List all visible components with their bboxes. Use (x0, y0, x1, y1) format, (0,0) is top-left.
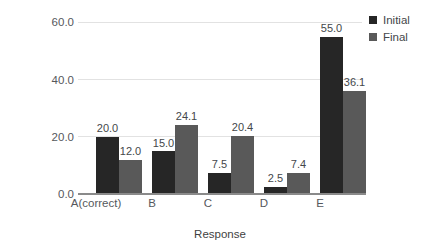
chart-legend: Initial Final (369, 12, 437, 46)
x-axis-line (78, 193, 366, 195)
legend-item-final[interactable]: Final (369, 29, 437, 45)
y-axis-tick-labels: 0.0 20.0 40.0 60.0 (34, 0, 74, 252)
legend-swatch-initial (369, 16, 377, 24)
legend-item-initial[interactable]: Initial (369, 12, 437, 28)
legend-label-final: Final (383, 31, 408, 43)
bar-initial-e[interactable] (320, 37, 343, 194)
bar-chart-figure: Frequency (%) 0.0 20.0 40.0 60.0 20.0 12… (0, 0, 437, 252)
legend-label-initial: Initial (383, 14, 410, 26)
bar-value-initial-d: 2.5 (256, 172, 296, 184)
bar-value-initial-c: 7.5 (200, 158, 240, 170)
plot-area: 20.0 12.0 15.0 24.1 7.5 20.4 2.5 7.4 (78, 22, 362, 194)
bar-value-final-c: 20.4 (223, 121, 263, 133)
y-tick-label-1: 20.0 (34, 131, 74, 143)
legend-swatch-final (369, 33, 377, 41)
bar-value-final-b: 24.1 (167, 110, 207, 122)
bar-initial-b[interactable] (152, 151, 175, 194)
bar-value-initial-e: 55.0 (312, 22, 352, 34)
bar-final-a[interactable] (119, 160, 142, 194)
bar-final-b[interactable] (175, 125, 198, 194)
bar-value-final-e: 36.1 (335, 76, 375, 88)
bar-value-final-d: 7.4 (279, 158, 319, 170)
x-tick-label-e: E (275, 197, 365, 209)
y-tick-label-2: 40.0 (34, 74, 74, 86)
bar-initial-c[interactable] (208, 173, 231, 195)
x-axis-title: Response (78, 228, 362, 240)
bar-value-initial-a: 20.0 (88, 122, 128, 134)
y-tick-label-3: 60.0 (34, 16, 74, 28)
bar-value-initial-b: 15.0 (144, 137, 184, 149)
bar-final-e[interactable] (343, 91, 366, 194)
